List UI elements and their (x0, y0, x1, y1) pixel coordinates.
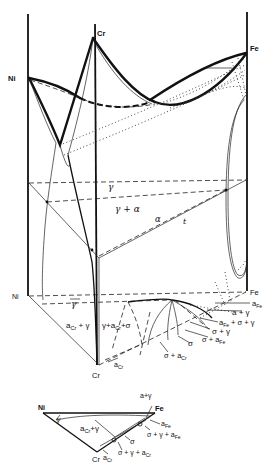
label-cr-bottom: Cr (92, 371, 100, 380)
inset-label-sigma: σ (130, 437, 135, 446)
fe-loop (226, 95, 247, 278)
isothermal-section: γ γ + α α t (29, 180, 246, 258)
inset-label-gamma: γ (56, 415, 61, 424)
liquidus-surface (29, 38, 246, 155)
inset-triangle: Ni Fe Cr a+γ γ aCr+γ aFe σ + γ + aFe σ σ… (38, 392, 181, 463)
label-alpha-gamma: a + γ (232, 308, 250, 317)
label-sigma-alpha-fe: σ + aFe (202, 335, 225, 345)
label-fe-bottom: Fe (250, 288, 259, 297)
label-cr-top: Cr (97, 29, 105, 38)
cr-fe-liquidus (93, 38, 246, 105)
inset-label-alpha-cr: aCr (103, 454, 113, 463)
label-ni-top: Ni (8, 74, 16, 83)
base-triangle (29, 272, 250, 365)
ni-cr-liquidus (29, 38, 93, 145)
label-gamma-alpha-cr-sigma: γ+aCr+σ (102, 321, 131, 331)
label-gamma-alpha: γ + α (115, 204, 140, 214)
solidus-curves (42, 143, 97, 365)
inset-label-alpha-cr-gamma: aCr+γ (80, 424, 99, 434)
inset-label-alpha-fe: aFe (161, 420, 171, 429)
label-gamma: γ (108, 182, 114, 192)
label-fe-top: Fe (250, 44, 259, 53)
label-alpha-cr-gamma: aCr + γ (66, 321, 89, 331)
inset-label-cr: Cr (92, 455, 100, 463)
label-ni-bottom: Ni (12, 293, 19, 300)
label-alpha-cr: aCr (114, 361, 124, 370)
label-alpha-fe: aFe (252, 299, 262, 309)
label-sigma-alpha-cr: σ + aCr (164, 351, 187, 361)
label-alpha: α (155, 214, 161, 224)
inset-label-fe: Fe (155, 404, 164, 413)
label-t: t (183, 217, 187, 226)
label-sigma: σ (188, 339, 193, 348)
inset-label-sigma-gamma-alpha-fe: σ + γ + aFe (147, 431, 181, 440)
inset-label-alpha-gamma: a+γ (140, 392, 152, 400)
inset-label-ni: Ni (38, 404, 45, 411)
inset-label-sigma-gamma-alpha-cr: σ + γ + aCr (118, 449, 151, 458)
label-base-gamma: γ (71, 299, 77, 309)
ternary-phase-diagram: γ γ + α α t γ (0, 0, 278, 463)
